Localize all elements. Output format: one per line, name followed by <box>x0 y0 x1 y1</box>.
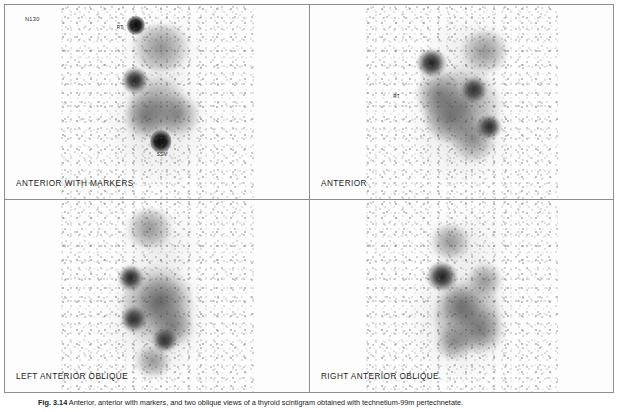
study-id-label: N130 <box>25 16 40 22</box>
scintigram-image-anterior: RT <box>310 5 613 199</box>
panel-caption-right-anterior-oblique: RIGHT ANTERIOR OBLIQUE <box>321 372 439 381</box>
scint-field: RTSSN <box>60 5 255 199</box>
marker-label-rt: RT <box>117 25 124 30</box>
figure-legend: Fig. 3.14 Anterior, anterior with marker… <box>38 398 598 407</box>
marker-label-rt: RT <box>393 93 400 98</box>
scintigram-image-right-anterior-oblique <box>310 200 613 393</box>
scint-field <box>60 200 255 393</box>
scint-field <box>365 200 559 393</box>
scint-field: RT <box>365 5 559 199</box>
marker-label-ssn: SSN <box>157 151 167 156</box>
panel-caption-left-anterior-oblique: LEFT ANTERIOR OBLIQUE <box>16 372 128 381</box>
scan-panel-anterior-with-markers: RTSSN N130 ANTERIOR WITH MARKERS <box>5 5 309 199</box>
scan-panel-anterior: RT ANTERIOR <box>309 5 613 199</box>
panel-caption-anterior: ANTERIOR <box>321 179 367 188</box>
figure-legend-text: Anterior, anterior with markers, and two… <box>69 398 463 407</box>
figure-plate: RTSSN N130 ANTERIOR WITH MARKERS RT ANTE… <box>4 4 614 393</box>
scan-panel-left-anterior-oblique: LEFT ANTERIOR OBLIQUE <box>5 199 309 393</box>
figure-number: Fig. 3.14 <box>38 398 67 407</box>
panel-caption-anterior-with-markers: ANTERIOR WITH MARKERS <box>16 179 134 188</box>
scan-panel-right-anterior-oblique: RIGHT ANTERIOR OBLIQUE <box>309 199 613 393</box>
scan-noise-layer-secondary <box>365 200 559 393</box>
scan-noise-layer-secondary <box>365 5 559 199</box>
scintigram-image-anterior-with-markers: RTSSN <box>5 5 309 199</box>
scan-noise-layer-secondary <box>60 200 255 393</box>
scan-noise-layer-secondary <box>60 5 255 199</box>
scintigram-image-left-anterior-oblique <box>5 200 309 393</box>
